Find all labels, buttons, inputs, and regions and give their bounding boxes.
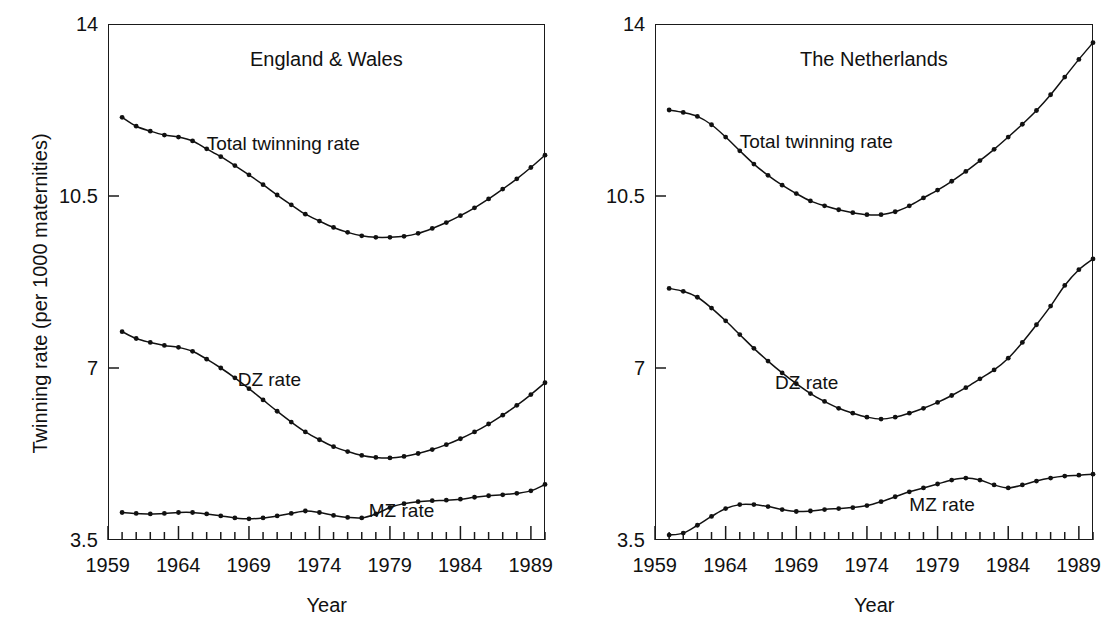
data-point [907, 203, 912, 208]
y-tick-label: 10.5 [606, 185, 645, 208]
data-point [430, 447, 435, 452]
data-point [681, 289, 686, 294]
data-point [402, 234, 407, 239]
data-point [359, 233, 364, 238]
data-point [695, 523, 700, 528]
data-point [514, 176, 519, 181]
x-axis-title: Year [854, 594, 894, 617]
data-point [879, 499, 884, 504]
data-point [261, 515, 266, 520]
data-point [373, 235, 378, 240]
x-tick-label: 1984 [438, 554, 483, 577]
data-point [416, 451, 421, 456]
data-point [907, 411, 912, 416]
data-point [1020, 122, 1025, 127]
data-point [808, 199, 813, 204]
data-point [303, 509, 308, 514]
data-point [667, 533, 672, 538]
data-point [963, 169, 968, 174]
data-point [444, 220, 449, 225]
data-point [317, 437, 322, 442]
x-tick-label: 1989 [1056, 554, 1101, 577]
data-point [752, 162, 757, 167]
data-point [134, 336, 139, 341]
twinning-rate-figure: Twinning rate (per 1000 maternities) Eng… [0, 0, 1113, 633]
data-point [190, 139, 195, 144]
x-tick-label: 1979 [367, 554, 412, 577]
data-point [695, 114, 700, 119]
data-point [148, 512, 153, 517]
y-tick-label: 14 [623, 13, 645, 36]
data-point [1034, 479, 1039, 484]
data-point [500, 413, 505, 418]
data-point [218, 366, 223, 371]
data-point [176, 345, 181, 350]
data-point [752, 502, 757, 507]
data-point [949, 478, 954, 483]
x-tick-label: 1974 [844, 554, 889, 577]
data-point [766, 173, 771, 178]
y-tick-label: 10.5 [59, 185, 98, 208]
data-point [992, 483, 997, 488]
data-point [667, 286, 672, 291]
series-label: MZ rate [369, 500, 434, 522]
data-point [935, 400, 940, 405]
data-point [190, 349, 195, 354]
data-point [232, 163, 237, 168]
data-point [486, 493, 491, 498]
data-point [963, 385, 968, 390]
data-point [850, 505, 855, 510]
data-point [766, 359, 771, 364]
data-point [865, 415, 870, 420]
data-point [1062, 474, 1067, 479]
data-point [444, 498, 449, 503]
data-point [794, 509, 799, 514]
data-point [1076, 57, 1081, 62]
data-point [317, 219, 322, 224]
x-tick-label: 1974 [297, 554, 342, 577]
data-point [935, 482, 940, 487]
data-point [120, 510, 125, 515]
data-point [289, 420, 294, 425]
data-point [148, 129, 153, 134]
series-label: MZ rate [909, 494, 974, 516]
data-point [345, 230, 350, 235]
series-label: DZ rate [238, 369, 301, 391]
data-point [766, 504, 771, 509]
series-line [669, 43, 1093, 215]
data-point [794, 191, 799, 196]
data-point [331, 444, 336, 449]
data-point [935, 188, 940, 193]
data-point [978, 478, 983, 483]
data-point [134, 511, 139, 516]
data-point [737, 502, 742, 507]
data-point [303, 212, 308, 217]
data-point [695, 295, 700, 300]
data-point [458, 436, 463, 441]
data-point [388, 235, 393, 240]
data-point [416, 231, 421, 236]
data-point [921, 406, 926, 411]
data-point [992, 147, 997, 152]
data-point [1020, 483, 1025, 488]
data-point [458, 497, 463, 502]
x-tick-label: 1959 [86, 554, 131, 577]
series-label: DZ rate [775, 372, 838, 394]
series-line [669, 259, 1093, 419]
data-point [681, 110, 686, 115]
data-point [709, 306, 714, 311]
data-point [949, 179, 954, 184]
data-point [723, 135, 728, 140]
x-tick-label: 1964 [156, 554, 201, 577]
data-point [261, 182, 266, 187]
data-point [275, 514, 280, 519]
data-point [331, 513, 336, 518]
data-point [1048, 304, 1053, 309]
data-point [430, 226, 435, 231]
data-point [204, 512, 209, 517]
data-point [162, 343, 167, 348]
data-point [345, 449, 350, 454]
data-point [780, 183, 785, 188]
data-point [978, 158, 983, 163]
series-line [122, 332, 545, 458]
